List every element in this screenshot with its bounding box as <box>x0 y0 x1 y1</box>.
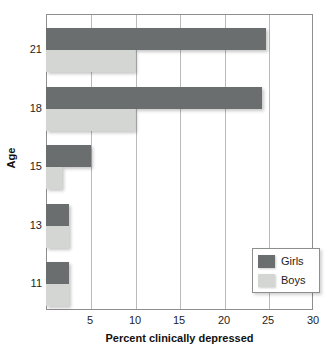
bar-boys-11 <box>46 284 69 306</box>
bar-girls-11 <box>46 262 69 284</box>
bar-girls-13 <box>46 204 69 226</box>
legend: Girls Boys <box>252 248 320 293</box>
legend-item-girls: Girls <box>258 253 314 270</box>
bar-girls-18 <box>46 87 262 109</box>
x-axis-title: Percent clinically depressed <box>46 332 313 344</box>
xtick-label-2: 15 <box>164 314 194 326</box>
xtick-label-5: 30 <box>298 314 328 326</box>
legend-label-boys: Boys <box>281 274 305 287</box>
xtick-label-1: 10 <box>120 314 150 326</box>
bar-chart: 21 18 15 13 11 5 10 15 20 25 30 Percent … <box>0 0 334 358</box>
bar-girls-21 <box>46 28 266 50</box>
ytick-label-3: 13 <box>24 219 42 231</box>
legend-swatch-girls-icon <box>258 255 275 268</box>
bar-boys-21 <box>46 50 135 72</box>
ytick-label-2: 15 <box>24 160 42 172</box>
legend-swatch-boys-icon <box>258 274 275 287</box>
bar-girls-15 <box>46 145 91 167</box>
ytick-label-0: 21 <box>24 43 42 55</box>
legend-item-boys: Boys <box>258 272 314 289</box>
bar-boys-15 <box>46 167 62 189</box>
bar-boys-13 <box>46 226 69 248</box>
xtick-label-0: 5 <box>75 314 105 326</box>
legend-label-girls: Girls <box>281 255 304 268</box>
ytick-label-4: 11 <box>24 277 42 289</box>
bar-boys-18 <box>46 109 135 131</box>
xtick-label-4: 25 <box>253 314 283 326</box>
ytick-label-1: 18 <box>24 102 42 114</box>
y-axis-title: Age <box>5 138 17 178</box>
xtick-label-3: 20 <box>209 314 239 326</box>
